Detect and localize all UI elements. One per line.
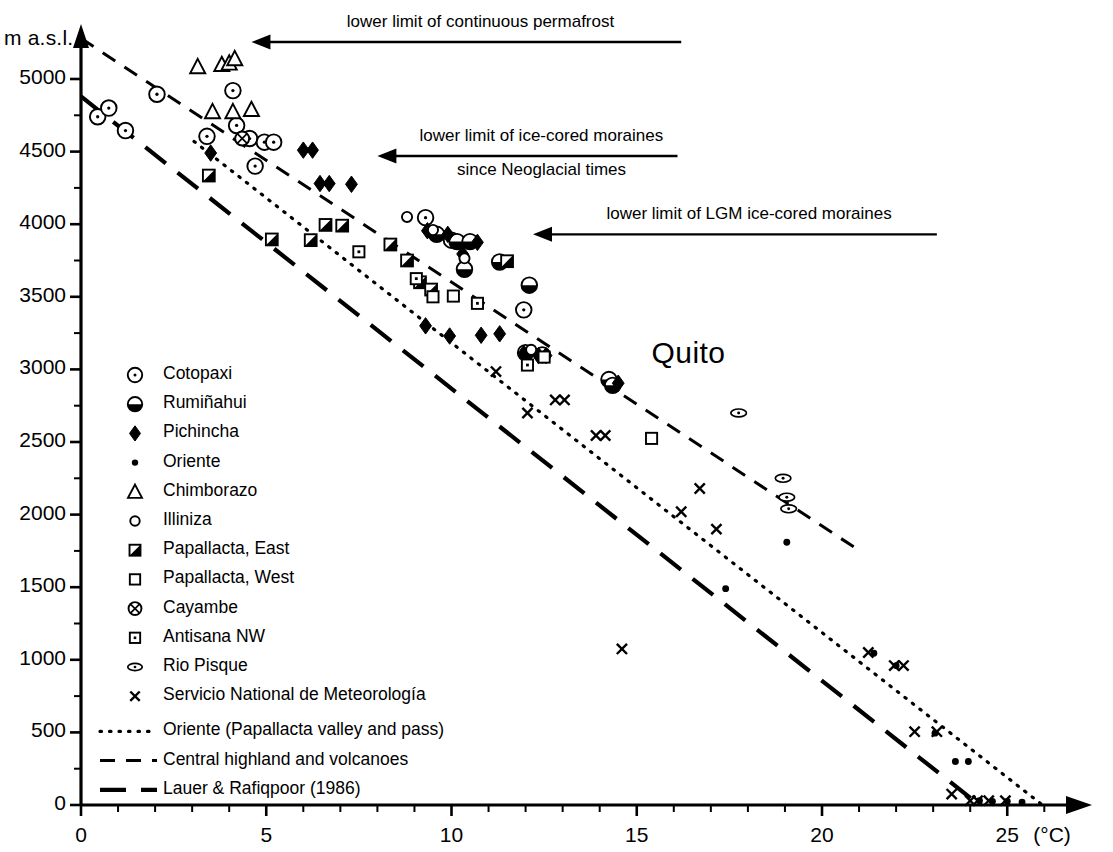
data-point-x	[550, 395, 560, 405]
data-point-square-half	[203, 170, 215, 182]
data-point-x	[591, 430, 601, 440]
data-point-circle-dot	[516, 302, 532, 318]
legend-marker-half-circle	[128, 397, 142, 411]
chart-canvas: 0500100015002000250030003500400045005000…	[0, 0, 1113, 852]
data-point-x	[559, 395, 569, 405]
y-tick-label: 3500	[0, 283, 66, 307]
data-point-x	[898, 661, 908, 671]
legend-marker-square-open	[130, 574, 140, 584]
data-point-ellipse-dot	[781, 505, 797, 513]
data-point-half-circle	[522, 277, 538, 293]
data-point-circle-dot	[118, 123, 134, 139]
x-tick-label: 0	[46, 823, 116, 847]
data-point-x	[522, 408, 532, 418]
data-point-square-open	[448, 290, 459, 301]
y-tick-label: 5000	[0, 65, 66, 89]
y-tick-label: 500	[0, 718, 66, 742]
x-tick-label: 25	[972, 823, 1042, 847]
legend-marker-square-half	[130, 545, 141, 556]
legend-label-line: Oriente (Papallacta valley and pass)	[163, 719, 444, 740]
data-point-square-half	[266, 234, 278, 246]
data-point-square-half	[336, 220, 348, 232]
data-point-ellipse-dot	[775, 474, 791, 482]
y-tick-label: 4000	[0, 210, 66, 234]
x-tick-label: 10	[417, 823, 487, 847]
annotation-label-permafrost: lower limit of continuous permafrost	[347, 12, 614, 32]
data-point-square-dot	[353, 246, 364, 257]
annotation-label-lgm: lower limit of LGM ice-cored moraines	[606, 204, 891, 224]
data-point-diamond	[346, 176, 358, 192]
x-axis-unit-label: (°C)	[1033, 823, 1071, 847]
y-tick-label: 1500	[0, 573, 66, 597]
legend-label-item: Rio Pisque	[163, 655, 248, 676]
data-point-ellipse-dot	[779, 493, 795, 501]
data-point-circle-cross	[235, 132, 249, 146]
data-point-square-half	[305, 234, 317, 246]
legend-marker-square-dot	[130, 633, 140, 643]
y-tick-label: 2500	[0, 428, 66, 452]
y-axis-unit-label: m a.s.l.	[4, 26, 73, 50]
data-point-square-half	[401, 255, 413, 267]
legend-marker-triangle	[128, 485, 142, 498]
data-point-circle-dot	[418, 210, 434, 226]
y-tick-label: 1000	[0, 646, 66, 670]
annotation-label-neoglacial: lower limit of ice-cored moraines	[419, 126, 663, 146]
trend-line-dashed	[81, 38, 861, 551]
data-point-diamond	[444, 328, 456, 344]
y-tick-label: 0	[0, 791, 66, 815]
data-point-ellipse-dot	[731, 409, 747, 417]
data-point-circle-open	[459, 253, 469, 263]
data-point-diamond	[475, 327, 487, 343]
legend-marker-circle-cross	[129, 602, 142, 615]
data-point-x	[617, 644, 627, 654]
legend-label-item: Pichincha	[163, 421, 239, 442]
annotation-arrowhead	[251, 34, 270, 49]
x-tick-label: 20	[787, 823, 857, 847]
data-point-dot	[783, 539, 790, 546]
data-point-circle-dot	[149, 86, 165, 102]
data-point-square-half	[320, 219, 332, 231]
data-point-dot	[1019, 799, 1026, 806]
data-point-circle-dot	[225, 83, 241, 99]
data-point-circle-dot	[101, 100, 117, 116]
legend-label-item: Cayambe	[163, 597, 238, 618]
data-point-triangle	[225, 104, 240, 118]
data-point-x	[491, 366, 501, 376]
data-point-triangle	[190, 59, 205, 73]
data-point-triangle	[205, 104, 220, 118]
legend-marker-dot	[132, 459, 138, 465]
trend-line-dotted	[194, 141, 1042, 805]
data-point-x	[711, 524, 721, 534]
legend-label-item: Papallacta, West	[163, 567, 294, 588]
data-point-circle-dot	[266, 134, 282, 150]
data-point-dot	[722, 585, 729, 592]
data-point-circle-dot	[199, 129, 215, 145]
legend-label-item: Oriente	[163, 451, 220, 472]
data-point-diamond	[307, 142, 319, 158]
data-point-x	[695, 483, 705, 493]
legend-label-item: Papallacta, East	[163, 538, 289, 559]
legend-label-item: Rumiñahui	[163, 392, 247, 413]
legend-label-line: Lauer & Rafiqpoor (1986)	[163, 778, 360, 799]
data-point-x	[600, 430, 610, 440]
y-tick-label: 2000	[0, 501, 66, 525]
legend-label-item: Chimborazo	[163, 480, 257, 501]
data-point-square-dot	[472, 298, 483, 309]
data-point-square-open	[539, 351, 550, 362]
data-point-diamond	[323, 175, 335, 191]
data-point-square-open	[646, 433, 657, 444]
annotation-label-neoglacial-line2: since Neoglacial times	[457, 160, 626, 180]
legend-marker-ellipse-dot	[128, 663, 142, 670]
annotation-arrowhead	[377, 148, 396, 163]
data-point-circle-open	[526, 345, 536, 355]
legend-label-line: Central highland and volcanoes	[163, 749, 408, 770]
legend-marker-circle-dot	[128, 368, 142, 382]
data-point-diamond	[494, 326, 506, 342]
data-point-square-dot	[522, 359, 533, 370]
legend-label-item: Cotopaxi	[163, 363, 232, 384]
x-axis-arrowhead	[1066, 796, 1092, 814]
place-label-quito: Quito	[652, 336, 726, 370]
legend-label-item: Servicio National de Meteorología	[163, 684, 426, 705]
data-point-circle-open	[402, 212, 412, 222]
x-tick-label: 15	[602, 823, 672, 847]
